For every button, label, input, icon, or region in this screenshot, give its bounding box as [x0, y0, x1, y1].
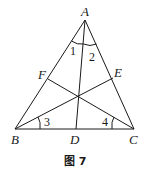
segment-cf — [48, 79, 134, 129]
angle-label-2: 2 — [89, 50, 95, 64]
point-label-d: D — [69, 132, 80, 147]
point-label-b: B — [11, 132, 19, 147]
segment-be — [15, 78, 113, 129]
figure-caption: 图 7 — [64, 155, 86, 168]
angle-label-4: 4 — [102, 115, 108, 129]
angle-arc-2 — [84, 44, 97, 46]
segment-ab — [15, 20, 85, 129]
point-label-e: E — [113, 65, 122, 80]
point-label-f: F — [37, 67, 47, 82]
point-label-c: C — [129, 132, 138, 147]
angle-label-1: 1 — [70, 44, 76, 58]
angle-label-3: 3 — [44, 115, 50, 129]
segment-ad — [76, 20, 85, 129]
angle-arc-3 — [38, 117, 40, 129]
point-label-a: A — [80, 4, 89, 19]
triangle-diagram: A B C D E F 1 2 3 4 图 7 — [0, 0, 151, 178]
angle-arc-4 — [112, 117, 114, 129]
segment-ac — [85, 20, 134, 129]
